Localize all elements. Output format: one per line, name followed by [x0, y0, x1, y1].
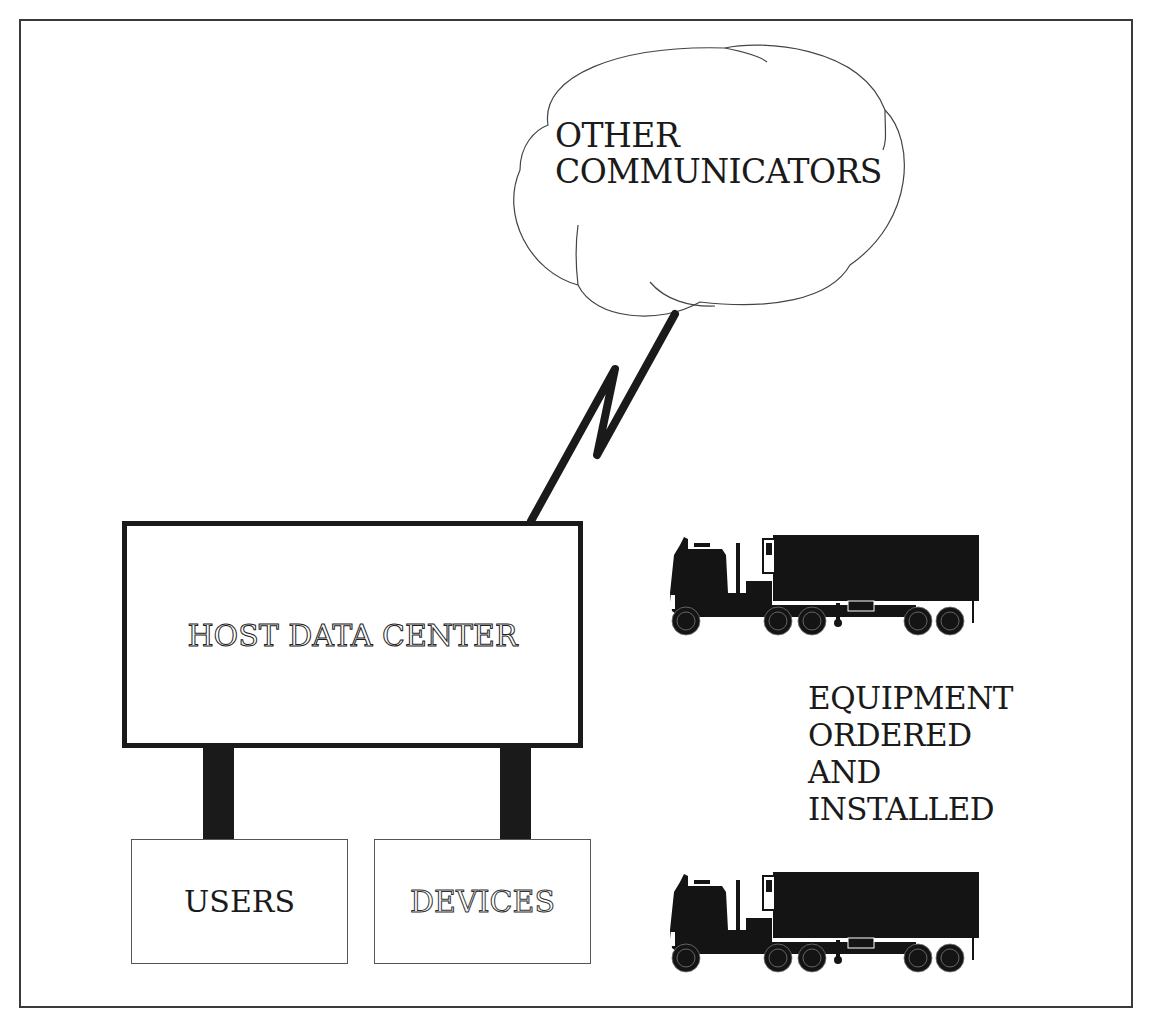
users-connector: [203, 746, 234, 840]
equipment-label-line: ORDERED: [808, 717, 1013, 754]
lightning-link-icon: [531, 314, 675, 521]
host-data-center-box: HOST DATA CENTER: [122, 521, 583, 748]
users-box: USERS: [131, 839, 348, 964]
equipment-label-line: INSTALLED: [808, 791, 1013, 828]
equipment-label-line: AND: [808, 754, 1013, 791]
cloud-label: OTHER COMMUNICATORS: [555, 118, 882, 190]
users-label: USERS: [132, 884, 347, 919]
equipment-label-line: EQUIPMENT: [808, 680, 1013, 717]
semi-truck-icon: [666, 870, 982, 974]
semi-truck-icon: [666, 533, 982, 637]
equipment-label: EQUIPMENT ORDERED AND INSTALLED: [808, 680, 1013, 828]
cloud-label-line: COMMUNICATORS: [555, 154, 882, 190]
host-data-center-label: HOST DATA CENTER: [127, 618, 578, 653]
devices-box: DEVICES: [374, 839, 591, 964]
cloud-label-line: OTHER: [555, 118, 882, 154]
devices-label: DEVICES: [375, 884, 590, 919]
devices-connector: [500, 746, 531, 840]
